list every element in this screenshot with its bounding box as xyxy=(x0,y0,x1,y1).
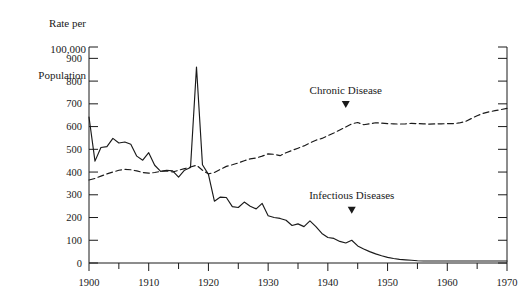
x-axis-tick-label: 1930 xyxy=(258,277,279,288)
y-axis-tick-label: 700 xyxy=(66,98,82,109)
x-axis-tick-label: 1920 xyxy=(198,277,219,288)
series-line-infectious-diseases xyxy=(89,67,507,261)
y-axis-tick-label: 0 xyxy=(77,258,82,269)
y-axis-title-line-2: 100,000 xyxy=(2,43,86,56)
y-axis-tick-label: 300 xyxy=(66,189,82,200)
x-axis: 19001910192019301940195019601970 xyxy=(79,263,518,288)
y-axis: 0100200300400500600700800900 xyxy=(66,47,507,269)
y-axis-tick-label: 500 xyxy=(66,144,82,155)
x-axis-tick-label: 1910 xyxy=(138,277,159,288)
y-axis-tick-label: 200 xyxy=(66,212,82,223)
x-axis-tick-label: 1900 xyxy=(79,277,100,288)
x-axis-tick-label: 1950 xyxy=(377,277,398,288)
annotation-pointer-triangle-icon xyxy=(342,101,350,108)
x-axis-tick-label: 1960 xyxy=(437,277,458,288)
data-series-group xyxy=(89,67,507,261)
y-axis-title-line-3: Population xyxy=(2,69,86,82)
annotation-pointer-triangle-icon xyxy=(348,207,356,214)
x-axis-tick-label: 1940 xyxy=(317,277,338,288)
y-axis-tick-label: 100 xyxy=(66,235,82,246)
y-axis-tick-label: 400 xyxy=(66,167,82,178)
series-annotation-label: Infectious Diseases xyxy=(309,189,394,201)
chart-figure: Rate per 100,000 Population 010020030040… xyxy=(0,0,526,302)
y-axis-tick-label: 600 xyxy=(66,121,82,132)
annotations-group: Chronic DiseaseInfectious Diseases xyxy=(309,84,394,214)
y-axis-title: Rate per 100,000 Population xyxy=(2,4,86,95)
x-axis-tick-label: 1970 xyxy=(497,277,518,288)
series-annotation-label: Chronic Disease xyxy=(310,84,383,96)
y-axis-title-line-1: Rate per xyxy=(2,17,86,30)
series-line-chronic-disease xyxy=(89,108,507,180)
